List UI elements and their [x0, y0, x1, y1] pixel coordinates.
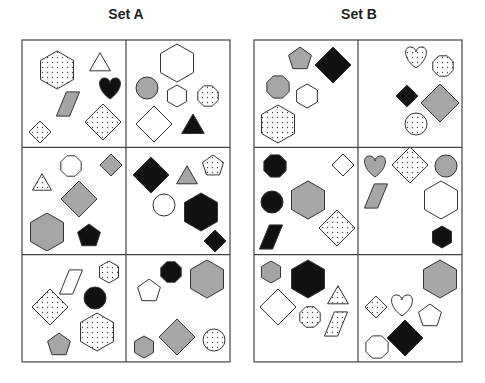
panel-r1-c1 [133, 155, 226, 252]
diamond-shape-icon [365, 296, 387, 318]
heart-shape-icon [365, 156, 386, 177]
panel-r2-c0 [32, 261, 119, 355]
circle-shape-icon [405, 113, 427, 135]
octagon-shape-icon [264, 155, 286, 177]
pentagon-shape-icon [138, 279, 161, 301]
panel-r2-c0 [260, 260, 348, 336]
hexagon-shape-icon [100, 261, 119, 283]
diamond-shape-icon [136, 106, 172, 142]
triangle-shape-icon [328, 286, 349, 304]
hexagon-shape-icon [41, 51, 74, 89]
diamond-shape-icon [100, 154, 122, 176]
octagon-shape-icon [433, 56, 453, 76]
diamond-shape-icon [392, 147, 428, 183]
hexagon-shape-icon [168, 85, 187, 107]
hexagon-shape-icon [81, 313, 114, 351]
panel-r1-c0 [259, 154, 355, 249]
octagon-shape-icon [366, 336, 388, 358]
octagon-shape-icon [198, 86, 218, 106]
panel-r1-c1 [364, 147, 457, 248]
hexagon-shape-icon [292, 181, 325, 219]
parallelogram-shape-icon [56, 92, 79, 116]
diamond-shape-icon [421, 84, 459, 122]
parallelogram-shape-icon [324, 312, 347, 336]
heart-shape-icon [406, 47, 427, 68]
panel-r2-c1 [365, 260, 457, 358]
triangle-shape-icon [33, 174, 52, 191]
diamond-shape-icon [396, 85, 418, 107]
hexagon-shape-icon [191, 260, 224, 298]
panel-r0-c1 [396, 47, 459, 135]
hexagon-shape-icon [433, 226, 452, 248]
pentagon-shape-icon [203, 155, 224, 175]
octagon-shape-icon [161, 262, 181, 282]
parallelogram-shape-icon [364, 184, 387, 208]
hexagon-shape-icon [425, 181, 458, 219]
diamond-shape-icon [260, 289, 296, 325]
hexagon-shape-icon [297, 84, 318, 108]
hexagon-shape-icon [292, 260, 325, 298]
triangle-shape-icon [177, 166, 198, 184]
diamond-shape-icon [159, 319, 195, 355]
diamond-shape-icon [29, 121, 51, 143]
circle-shape-icon [84, 287, 106, 309]
hexagon-shape-icon [161, 44, 194, 82]
circle-shape-icon [261, 191, 283, 213]
diamond-shape-icon [85, 104, 121, 140]
circle-shape-icon [153, 194, 175, 216]
circle-shape-icon [136, 77, 158, 99]
diamond-shape-icon [387, 320, 423, 356]
hexagon-shape-icon [31, 213, 64, 251]
heart-shape-icon [100, 78, 121, 99]
panel-r0-c1 [136, 44, 218, 142]
diagram-canvas [0, 0, 485, 383]
circle-shape-icon [203, 329, 225, 351]
diamond-shape-icon [61, 181, 97, 217]
diamond-shape-icon [204, 230, 226, 252]
diamond-shape-icon [319, 210, 355, 246]
heart-shape-icon [392, 295, 413, 316]
panel-r0-c0 [262, 47, 352, 143]
parallelogram-shape-icon [259, 225, 282, 249]
circle-shape-icon [435, 155, 457, 177]
panel-r0-c0 [29, 51, 121, 143]
triangle-shape-icon [90, 53, 111, 71]
hexagon-shape-icon [185, 193, 218, 231]
diamond-shape-icon [315, 47, 351, 83]
octagon-shape-icon [267, 76, 289, 98]
panel-r2-c1 [135, 260, 226, 358]
hexagon-shape-icon [135, 336, 154, 358]
hexagon-shape-icon [262, 105, 295, 143]
octagon-shape-icon [61, 156, 81, 176]
pentagon-shape-icon [419, 304, 442, 326]
pentagon-shape-icon [78, 224, 101, 246]
pentagon-shape-icon [289, 47, 312, 69]
panel-r1-c0 [31, 154, 123, 251]
parallelogram-shape-icon [59, 270, 82, 294]
diamond-shape-icon [332, 154, 354, 176]
diamond-shape-icon [133, 157, 169, 193]
octagon-shape-icon [300, 307, 320, 327]
triangle-shape-icon [182, 114, 205, 134]
hexagon-shape-icon [262, 261, 281, 283]
hexagon-shape-icon [424, 260, 457, 298]
pentagon-shape-icon [48, 333, 71, 355]
